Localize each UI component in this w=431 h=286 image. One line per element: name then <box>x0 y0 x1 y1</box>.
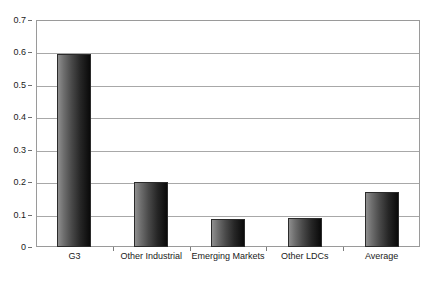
x-tick-mark <box>190 247 191 251</box>
bar <box>288 218 322 247</box>
y-tick-mark <box>28 215 32 216</box>
x-tick-mark <box>343 247 344 251</box>
y-tick-label: 0 <box>21 243 26 252</box>
bar-chart-figure: 00.10.20.30.40.50.60.7 G3Other Industria… <box>0 0 431 286</box>
y-tick-mark <box>28 52 32 53</box>
y-tick-label: 0.4 <box>13 113 26 122</box>
x-tick-mark <box>113 247 114 251</box>
bar <box>211 219 245 247</box>
y-tick-label: 0.7 <box>13 16 26 25</box>
x-tick-mark <box>266 247 267 251</box>
x-tick-label: Other LDCs <box>281 252 329 261</box>
y-tick-mark <box>28 150 32 151</box>
bar <box>365 192 399 247</box>
y-tick-label: 0.5 <box>13 80 26 89</box>
x-tick-label: Emerging Markets <box>191 252 264 261</box>
x-axis: G3Other IndustrialEmerging MarketsOther … <box>36 252 420 274</box>
y-tick-label: 0.6 <box>13 48 26 57</box>
y-tick-mark <box>28 20 32 21</box>
y-tick-mark <box>28 117 32 118</box>
bar <box>57 54 91 247</box>
y-tick-mark <box>28 85 32 86</box>
y-tick-mark <box>28 182 32 183</box>
y-tick-mark <box>28 247 32 248</box>
x-tick-label: G3 <box>68 252 80 261</box>
bars-layer <box>36 20 420 247</box>
y-tick-label: 0.3 <box>13 145 26 154</box>
y-tick-label: 0.2 <box>13 178 26 187</box>
y-axis: 00.10.20.30.40.50.60.7 <box>0 20 32 247</box>
bar <box>134 182 168 247</box>
x-tick-label: Other Industrial <box>120 252 182 261</box>
x-tick-label: Average <box>365 252 398 261</box>
y-tick-label: 0.1 <box>13 210 26 219</box>
